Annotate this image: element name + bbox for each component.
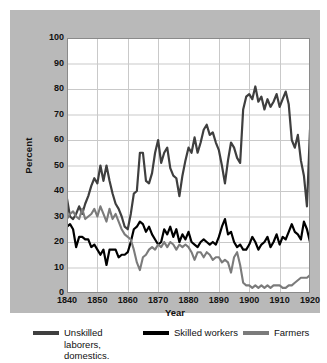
legend-swatch-unskilled xyxy=(33,331,59,335)
x-tick-1840: 1840 xyxy=(52,295,82,305)
legend-label-farmers: Farmers xyxy=(274,327,309,339)
y-tick-20: 20 xyxy=(38,237,64,246)
plot-area xyxy=(67,38,310,293)
y-tick-60: 60 xyxy=(38,135,64,144)
legend-swatch-farmers xyxy=(243,331,269,335)
chart-legend: Unskilled laborers, domestics. Skilled w… xyxy=(10,327,327,363)
chart-figure: Percent 0102030405060708090100 184018501… xyxy=(0,0,327,363)
x-tick-1870: 1870 xyxy=(143,295,173,305)
y-tick-90: 90 xyxy=(38,59,64,68)
y-tick-70: 70 xyxy=(38,110,64,119)
chart-panel: Percent 0102030405060708090100 184018501… xyxy=(10,10,320,313)
x-tick-1920: 1920 xyxy=(295,295,325,305)
series-line-0 xyxy=(67,86,310,229)
data-series-lines xyxy=(67,86,310,287)
legend-item-farmers: Farmers xyxy=(243,327,309,339)
y-axis-tick-labels: 0102030405060708090100 xyxy=(34,10,64,313)
series-line-2 xyxy=(67,206,310,288)
legend-item-skilled: Skilled workers xyxy=(143,327,238,339)
y-tick-50: 50 xyxy=(38,161,64,170)
x-tick-1850: 1850 xyxy=(82,295,112,305)
legend-swatch-skilled xyxy=(143,331,169,335)
x-tick-1860: 1860 xyxy=(113,295,143,305)
y-tick-80: 80 xyxy=(38,84,64,93)
legend-label-unskilled: Unskilled laborers, domestics. xyxy=(64,327,134,362)
x-axis-title: Year xyxy=(20,307,327,318)
y-axis-title: Percent xyxy=(23,126,34,186)
x-tick-1910: 1910 xyxy=(265,295,295,305)
y-tick-10: 10 xyxy=(38,263,64,272)
x-tick-1890: 1890 xyxy=(204,295,234,305)
x-tick-1900: 1900 xyxy=(234,295,264,305)
y-tick-30: 30 xyxy=(38,212,64,221)
legend-item-unskilled: Unskilled laborers, domestics. xyxy=(33,327,134,362)
y-tick-40: 40 xyxy=(38,186,64,195)
plot-svg xyxy=(67,38,310,293)
legend-label-skilled: Skilled workers xyxy=(174,327,238,339)
x-tick-1880: 1880 xyxy=(174,295,204,305)
y-tick-100: 100 xyxy=(38,33,64,42)
